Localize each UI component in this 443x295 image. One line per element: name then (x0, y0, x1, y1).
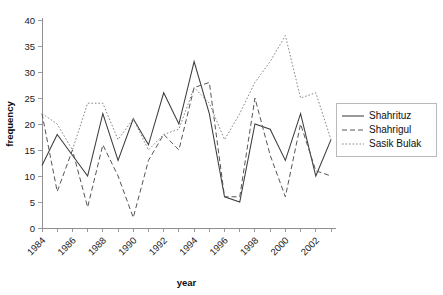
legend-item-shahrituz: Shahrituz (342, 109, 430, 123)
x-axis-title: year (177, 277, 197, 288)
x-tick-label: 2000 (268, 235, 291, 258)
legend-label: Sasik Bulak (369, 138, 421, 150)
series-line-shahrigul (42, 82, 331, 217)
y-axis-ticks: 0510152025303540 (24, 15, 42, 234)
chart-legend: Shahrituz Shahrigul Sasik Bulak (336, 103, 437, 157)
legend-item-shahrigul: Shahrigul (342, 123, 430, 137)
y-tick-label: 10 (24, 171, 35, 182)
y-tick-label: 30 (24, 67, 35, 78)
legend-label: Shahrituz (369, 110, 411, 122)
x-axis-ticks: 1984198619881990199219941996199820002002 (25, 228, 331, 257)
y-tick-label: 20 (24, 119, 35, 130)
line-chart: 0510152025303540 19841986198819901992199… (0, 0, 443, 295)
data-series-group (42, 36, 331, 218)
x-tick-label: 1990 (116, 235, 139, 258)
y-tick-label: 35 (24, 41, 35, 52)
x-tick-label: 2002 (298, 235, 321, 258)
legend-swatch-dashed-icon (342, 125, 364, 135)
legend-swatch-solid-icon (342, 111, 364, 121)
x-tick-label: 1992 (146, 235, 169, 258)
y-tick-label: 25 (24, 93, 35, 104)
y-axis-title: frequency (4, 101, 15, 147)
x-tick-label: 1996 (207, 235, 230, 258)
x-tick-label: 1984 (25, 235, 48, 258)
x-tick-label: 1998 (238, 235, 261, 258)
y-tick-label: 5 (30, 197, 35, 208)
legend-swatch-dotted-icon (342, 139, 364, 149)
x-tick-label: 1988 (86, 235, 109, 258)
y-tick-label: 40 (24, 15, 35, 26)
series-line-shahrituz (42, 62, 331, 202)
x-tick-label: 1994 (177, 235, 200, 258)
legend-item-sasik-bulak: Sasik Bulak (342, 137, 430, 151)
legend-label: Shahrigul (369, 124, 411, 136)
y-tick-label: 15 (24, 145, 35, 156)
x-tick-label: 1986 (55, 235, 78, 258)
y-tick-label: 0 (30, 223, 35, 234)
